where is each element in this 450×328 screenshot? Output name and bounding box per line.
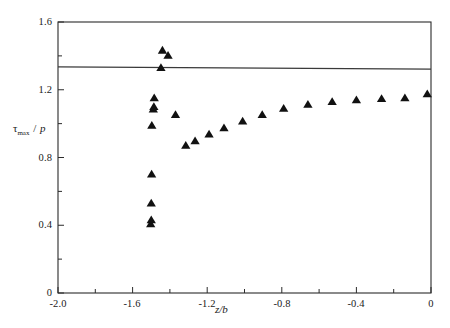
y-axis-ticks [58,22,64,293]
plot-frame [58,22,431,293]
reference-line [58,67,431,69]
data-point-marker [147,170,156,178]
data-point-marker [352,95,361,103]
data-point-marker [158,46,167,54]
data-point-marker [377,94,386,102]
data-point-marker [190,136,199,144]
data-point-marker [150,93,159,101]
data-point-marker [328,97,337,105]
data-point-marker [400,93,409,101]
axes-frame [58,22,431,293]
data-point-marker [279,104,288,112]
x-axis-ticks [58,287,431,293]
data-point-marker [171,110,180,118]
data-point-marker [258,110,267,118]
data-point-marker [238,117,247,125]
data-point-marker [147,199,156,207]
data-point-marker [147,121,156,129]
data-point-marker [204,130,213,138]
data-point-marker [181,141,190,149]
data-point-marker [147,215,156,223]
figure-container: 1.6 1.2 0.8 0.4 0 -2.0 -1.6 -1.2 -0.8 -0… [0,0,450,328]
plot-canvas [0,0,450,328]
data-markers [146,46,432,227]
data-point-marker [303,100,312,108]
data-point-marker [219,123,228,131]
data-point-marker [149,102,158,110]
